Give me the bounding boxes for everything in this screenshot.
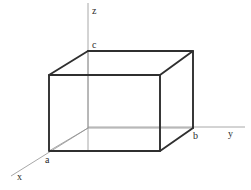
vertex-label-b: b (193, 131, 198, 141)
vertex-label-c: c (92, 40, 96, 50)
connector-bottom-right-edge (160, 128, 193, 151)
z-axis-label: z (92, 6, 96, 16)
box-diagram-figure: z y x c b a (0, 0, 251, 190)
box-diagram-canvas (0, 0, 251, 190)
y-axis-label: y (228, 129, 233, 139)
connector-top-left-edge (49, 51, 88, 75)
x-axis-label: x (17, 172, 22, 182)
connector-top-right-edge (160, 51, 193, 75)
vertex-label-a: a (45, 155, 49, 165)
solid-edges-group (49, 51, 193, 151)
connector-bottom-left-edge (49, 128, 88, 151)
front-face-outline (49, 75, 160, 151)
